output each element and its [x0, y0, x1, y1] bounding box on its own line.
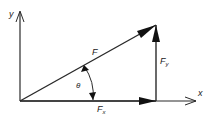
fy-vector [152, 25, 160, 101]
y-axis-label: y [8, 9, 14, 19]
fx-vector [20, 97, 156, 105]
fx-label: Fx [97, 104, 107, 115]
f-label: F [92, 47, 98, 57]
f-vector [20, 25, 156, 101]
fx-arrowhead-icon [139, 97, 156, 105]
theta-label: θ [76, 81, 81, 90]
angle-arc [81, 65, 96, 100]
x-axis-label: x [197, 88, 203, 98]
y-axis: y [8, 9, 24, 101]
x-axis: x [20, 88, 203, 105]
arc-arrowhead-bottom-icon [89, 92, 96, 100]
f-arrowhead-icon [137, 25, 156, 38]
fy-arrowhead-icon [152, 25, 160, 42]
fy-label: Fy [160, 56, 170, 67]
vector-diagram: y x Fx Fy F θ [0, 0, 212, 116]
